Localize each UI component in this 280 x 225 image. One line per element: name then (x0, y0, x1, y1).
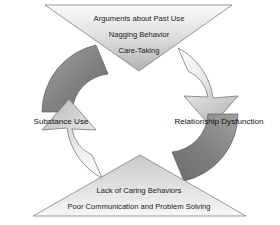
arrow-upper-left (42, 45, 108, 112)
node-bottom-line-1: Lack of Caring Behaviors (97, 186, 182, 195)
node-top-line-2: Nagging Behavior (109, 30, 170, 39)
node-top-line-1: Arguments about Past Use (94, 14, 185, 23)
node-bottom-line-2: Poor Communication and Problem Solving (67, 202, 210, 211)
side-label-relationship-dysfunction: Relationship Dysfunction (174, 117, 263, 126)
node-top-line-3: Care-Taking (119, 46, 160, 55)
side-label-substance-use: Substance Use (34, 117, 89, 126)
cycle-diagram: Arguments about Past Use Nagging Behavio… (0, 0, 280, 225)
cycle-diagram-canvas: Arguments about Past Use Nagging Behavio… (0, 0, 280, 225)
